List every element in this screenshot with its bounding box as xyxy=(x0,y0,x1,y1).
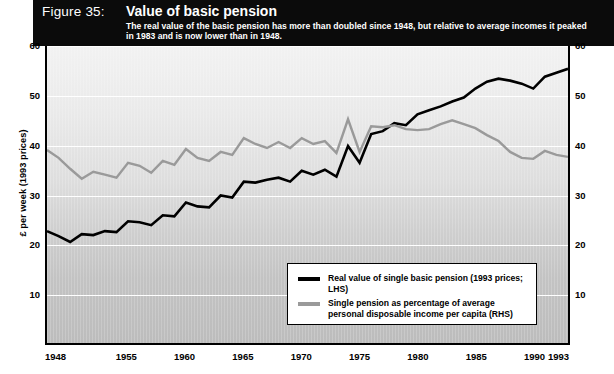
series-line-real-value xyxy=(47,69,568,242)
chart-legend: Real value of single basic pension (1993… xyxy=(287,263,537,325)
x-axis-tick-1960: 1960 xyxy=(174,352,195,362)
figure-number-label: Figure 35: xyxy=(42,4,105,19)
legend-swatch-icon xyxy=(298,302,320,306)
y-axis-right-tick-40: 40 xyxy=(575,141,601,151)
x-axis-tick-1980: 1980 xyxy=(407,352,428,362)
x-axis-tick-1970: 1970 xyxy=(291,352,312,362)
legend-swatch-icon xyxy=(298,277,320,281)
grid-texture-line xyxy=(569,46,570,343)
figure-subtitle: The real value of the basic pension has … xyxy=(126,21,596,42)
legend-item-real-value: Real value of single basic pension (1993… xyxy=(298,273,528,294)
x-axis-tick-1948: 1948 xyxy=(45,352,66,362)
series-line-percentage xyxy=(47,119,568,178)
x-axis-tick-1985: 1985 xyxy=(466,352,487,362)
x-axis-tick-1990: 1990 xyxy=(524,352,545,362)
y-axis-left-tick-10: 10 xyxy=(14,290,40,300)
y-axis-right-tick-60: 60 xyxy=(575,41,601,51)
y-axis-left-title: £ per week (1993 prices) xyxy=(18,90,28,276)
y-axis-right-tick-10: 10 xyxy=(575,290,601,300)
y-axis-right-tick-30: 30 xyxy=(575,191,601,201)
legend-item-percentage: Single pension as percentage of average … xyxy=(298,298,528,319)
x-axis-tick-1993: 1993 xyxy=(548,352,569,362)
y-axis-left-tick-60: 60 xyxy=(14,41,40,51)
figure-header-banner: Figure 35: Value of basic pension The re… xyxy=(33,0,614,46)
x-axis-tick-1955: 1955 xyxy=(116,352,137,362)
legend-label: Real value of single basic pension (1993… xyxy=(328,273,528,294)
x-axis-tick-1965: 1965 xyxy=(232,352,253,362)
y-axis-right-tick-20: 20 xyxy=(575,240,601,250)
x-axis-tick-1975: 1975 xyxy=(349,352,370,362)
y-axis-right-tick-50: 50 xyxy=(575,91,601,101)
legend-label: Single pension as percentage of average … xyxy=(328,298,528,319)
figure-title: Value of basic pension xyxy=(126,3,277,19)
